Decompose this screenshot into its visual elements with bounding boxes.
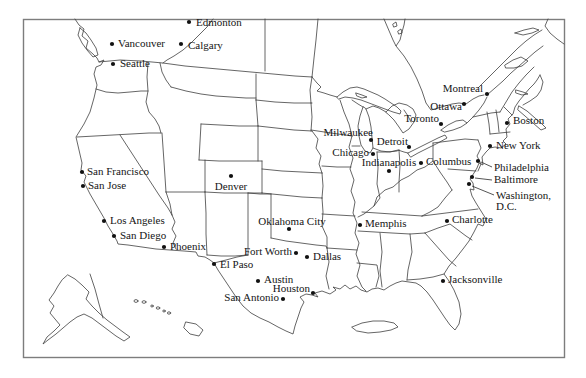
border-co-south xyxy=(205,192,262,193)
border-ky-va xyxy=(422,190,452,216)
alaska-canada-border xyxy=(90,274,103,318)
border-nc-sc xyxy=(425,224,472,240)
city-label-new-york: New York xyxy=(496,139,541,151)
border-ut-west xyxy=(162,133,166,192)
city-dot-fort-worth xyxy=(294,251,298,255)
border-id-mt xyxy=(160,63,171,87)
border-ny-vt xyxy=(487,112,490,134)
lake-superior xyxy=(337,87,401,114)
border-mt-south xyxy=(171,87,256,98)
city-label-columbus: Columbus xyxy=(426,155,471,167)
city-dot-toronto xyxy=(439,122,443,126)
city-label-oklahoma-city: Oklahoma City xyxy=(258,215,326,227)
border-sd-ne xyxy=(258,126,312,131)
city-markers: EdmontonVancouverCalgarySeattleMontrealO… xyxy=(80,16,551,303)
city-dot-indianapolis xyxy=(387,169,391,173)
border-wy-south xyxy=(199,160,262,161)
city-dot-houston xyxy=(311,291,315,295)
city-label-line: D.C. xyxy=(496,199,517,211)
city-dot-montreal xyxy=(485,92,489,96)
city-dot-oklahoma-city xyxy=(287,227,291,231)
city-dot-baltimore xyxy=(470,175,474,179)
mason-dixon-line xyxy=(448,169,476,171)
alaska xyxy=(43,275,130,344)
city-label-indianapolis: Indianapolis xyxy=(362,156,416,168)
border-manitoba-ontario xyxy=(312,19,318,77)
newfoundland-corner xyxy=(545,19,564,44)
city-label-philadelphia: Philadelphia xyxy=(494,161,549,173)
city-dot-philadelphia xyxy=(476,159,480,163)
cuba xyxy=(352,321,398,333)
city-label-phoenix: Phoenix xyxy=(170,240,207,252)
city-label-los-angeles: Los Angeles xyxy=(110,214,165,226)
border-nd-sd xyxy=(256,100,312,103)
border-ma-south xyxy=(490,132,510,134)
city-label-memphis: Memphis xyxy=(365,217,407,229)
upper-peninsula-link xyxy=(352,100,363,107)
isle-royale xyxy=(356,93,367,98)
border-wy-west xyxy=(199,124,201,160)
city-label-san-francisco: San Francisco xyxy=(87,165,150,177)
city-dot-edmonton xyxy=(187,20,191,24)
city-dot-san-jose xyxy=(81,184,85,188)
city-label-dallas: Dallas xyxy=(313,250,341,262)
border-wy-north xyxy=(201,124,258,126)
border-al-ga xyxy=(407,234,412,280)
city-dot-charlotte xyxy=(445,219,449,223)
city-dot-san-diego xyxy=(112,234,116,238)
city-dot-ottawa xyxy=(462,102,466,106)
leader-lines xyxy=(472,162,494,195)
bay-of-fundy-coast xyxy=(523,75,543,105)
ohio-river xyxy=(358,161,433,217)
city-dot-calgary xyxy=(179,42,183,46)
city-dot-denver xyxy=(229,174,233,178)
city-label-calgary: Calgary xyxy=(188,39,223,51)
border-idaho-west xyxy=(146,63,161,133)
city-dot-memphis xyxy=(358,223,362,227)
border-wa-or xyxy=(96,89,148,93)
city-dot-san-francisco xyxy=(80,170,84,174)
city-label-detroit: Detroit xyxy=(377,135,408,147)
city-label-baltimore: Baltimore xyxy=(494,173,538,185)
city-dot-jacksonville xyxy=(441,279,445,283)
missouri-river-ne xyxy=(312,131,322,173)
city-label-seattle: Seattle xyxy=(120,57,150,69)
border-sd-west xyxy=(256,100,258,126)
city-dot-boston xyxy=(505,121,509,125)
border-mo-ar xyxy=(322,214,355,216)
border-ks-mo xyxy=(322,173,323,198)
city-dot-austin xyxy=(256,279,260,283)
city-dot-el-paso xyxy=(212,262,216,266)
city-label-jacksonville: Jacksonville xyxy=(448,273,502,285)
hawaii-islands xyxy=(134,300,203,336)
lake-of-the-woods xyxy=(312,77,337,97)
gaspe-peninsula xyxy=(505,57,528,68)
city-label-toronto: Toronto xyxy=(404,112,439,124)
city-dot-seattle xyxy=(111,62,115,66)
city-label-charlotte: Charlotte xyxy=(452,213,493,225)
border-or-ca-nv xyxy=(77,133,161,137)
border-nh-me xyxy=(504,107,512,115)
city-dot-los-angeles xyxy=(102,219,106,223)
city-dot-vancouver xyxy=(110,42,114,46)
vancouver-island xyxy=(78,28,98,57)
city-dot-san-antonio xyxy=(281,297,285,301)
border-tn-south xyxy=(358,231,425,234)
city-label-milwaukee: Milwaukee xyxy=(324,126,374,138)
city-label-san-diego: San Diego xyxy=(120,229,167,241)
border-sd-mn xyxy=(311,103,312,131)
james-bay-island-2 xyxy=(398,29,402,34)
border-nd-mn xyxy=(310,77,312,103)
city-dot-phoenix xyxy=(162,245,166,249)
michigan-north-shore xyxy=(366,106,386,112)
map-canvas: EdmontonVancouverCalgarySeattleMontrealO… xyxy=(0,0,586,378)
city-dot-columbus xyxy=(419,161,423,165)
city-dot-washington-d-c xyxy=(467,182,471,186)
border-ne-ks xyxy=(262,169,322,173)
james-bay-island-1 xyxy=(393,22,397,27)
lake-ontario xyxy=(441,120,467,132)
city-dot-new-york xyxy=(488,144,492,148)
border-ms-al xyxy=(380,233,382,287)
city-label-washington-d-c: Washington,D.C. xyxy=(496,189,551,212)
border-ky-tn xyxy=(362,212,422,216)
